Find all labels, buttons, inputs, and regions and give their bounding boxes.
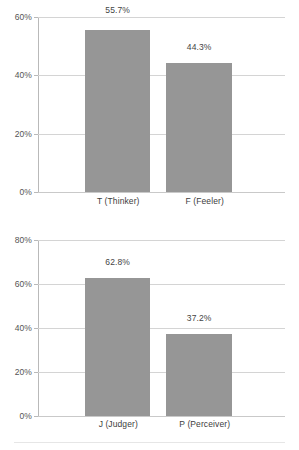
bars-2: 62.8% 37.2% xyxy=(38,240,285,416)
bar-feeler[interactable] xyxy=(166,63,231,192)
bar-thinker[interactable] xyxy=(85,30,150,192)
gridline-1-0 xyxy=(38,192,285,193)
figure-container: 60% 40% 20% 0% 55.7% 44.3% T (Thinker) F… xyxy=(0,0,299,450)
y-tick-2-0 xyxy=(34,416,38,417)
y-tick-label-1-60: 60% xyxy=(15,12,32,22)
bar-value-perceiver: 37.2% xyxy=(166,313,231,323)
chart-thinking-feeling: 60% 40% 20% 0% 55.7% 44.3% T (Thinker) F… xyxy=(0,0,299,222)
bar-judger[interactable] xyxy=(85,278,150,416)
bars-1: 55.7% 44.3% xyxy=(38,17,285,192)
y-tick-label-2-40: 40% xyxy=(15,323,32,333)
gridline-2-0 xyxy=(38,416,285,417)
y-tick-label-2-20: 20% xyxy=(15,367,32,377)
y-tick-label-1-20: 20% xyxy=(15,129,32,139)
footer-divider xyxy=(14,442,285,443)
chart-judging-perceiving: 80% 60% 40% 20% 0% 62.8% 37.2% J (Judger… xyxy=(0,224,299,434)
y-tick-label-1-40: 40% xyxy=(15,70,32,80)
y-tick-1-0 xyxy=(34,192,38,193)
bar-value-judger: 62.8% xyxy=(85,257,150,267)
x-tick-label-perceiver: P (Perceiver) xyxy=(149,419,260,429)
y-tick-label-1-0: 0% xyxy=(20,187,33,197)
bar-value-feeler: 44.3% xyxy=(166,42,231,52)
y-tick-label-2-0: 0% xyxy=(20,411,33,421)
x-tick-label-feeler: F (Feeler) xyxy=(149,196,260,206)
bar-perceiver[interactable] xyxy=(166,334,231,416)
bar-value-thinker: 55.7% xyxy=(85,5,150,15)
y-tick-label-2-80: 80% xyxy=(15,235,32,245)
y-tick-label-2-60: 60% xyxy=(15,279,32,289)
plot-area-1: 60% 40% 20% 0% 55.7% 44.3% xyxy=(38,17,285,192)
plot-area-2: 80% 60% 40% 20% 0% 62.8% 37.2% xyxy=(38,240,285,416)
